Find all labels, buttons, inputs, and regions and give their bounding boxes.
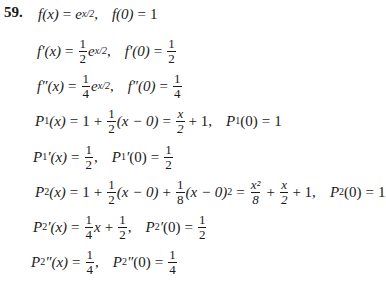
- num: 1: [107, 178, 116, 192]
- p-symbol: P: [145, 219, 154, 236]
- equals: =: [65, 43, 73, 60]
- term: (x − 0): [117, 113, 159, 130]
- equation-p2-prime: P2′(x) = 14x + 12, P2′(0) = 12: [33, 210, 207, 244]
- fraction: 14: [173, 72, 182, 101]
- p-symbol: P: [112, 149, 121, 166]
- comma: ,: [94, 149, 98, 166]
- equation-p2: P2(x) = 1 + 12 (x − 0) + 18 (x − 0)2 = x…: [35, 175, 386, 209]
- equals: =: [160, 78, 168, 95]
- fraction: 12: [118, 213, 127, 242]
- equals: =: [72, 254, 80, 271]
- den: 4: [85, 227, 94, 242]
- arg: (0): [344, 184, 362, 201]
- arg: (0): [133, 254, 151, 271]
- fraction: 12: [107, 107, 116, 136]
- arg: (x): [50, 219, 67, 236]
- plus: +: [94, 113, 102, 130]
- den: 2: [85, 157, 94, 172]
- num: x: [280, 178, 288, 192]
- fraction: 14: [85, 213, 94, 242]
- den: 2: [280, 192, 289, 207]
- p-symbol: P: [33, 219, 42, 236]
- comma: ,: [95, 254, 99, 271]
- term: 1: [82, 184, 90, 201]
- comma: ,: [94, 6, 98, 23]
- equals: =: [68, 78, 76, 95]
- num: 1: [85, 143, 94, 157]
- equals: =: [184, 219, 192, 236]
- den: 2: [118, 227, 127, 242]
- fraction: 14: [82, 72, 91, 101]
- arg: (0): [163, 219, 181, 236]
- fraction: 12: [79, 37, 88, 66]
- lhs: f″(x): [37, 78, 64, 95]
- equals: =: [262, 113, 270, 130]
- fraction: 12: [198, 213, 207, 242]
- value-lhs: f″(0): [128, 78, 156, 95]
- comma: ,: [128, 219, 132, 236]
- num: x: [176, 107, 184, 121]
- fraction: 14: [86, 248, 95, 277]
- den: 2: [167, 51, 176, 66]
- arg: (x): [49, 113, 66, 130]
- num: 1: [164, 143, 173, 157]
- comma: ,: [110, 78, 114, 95]
- equals: =: [71, 219, 79, 236]
- lhs: f′(x): [37, 43, 61, 60]
- num: 1: [168, 248, 177, 262]
- value: 1: [274, 113, 282, 130]
- arg: (0): [240, 113, 258, 130]
- num: 1: [118, 213, 127, 227]
- den: 4: [173, 86, 182, 101]
- equals: =: [63, 6, 71, 23]
- tail: + 1,: [189, 113, 212, 130]
- p-symbol: P: [35, 184, 44, 201]
- num: 1: [167, 37, 176, 51]
- den: 2: [198, 227, 207, 242]
- arg: (x): [51, 254, 68, 271]
- value-lhs: f′(0): [125, 43, 150, 60]
- comma: ,: [107, 43, 111, 60]
- e: e: [88, 43, 95, 60]
- num: 1: [82, 72, 91, 86]
- term: (x − 0): [186, 184, 228, 201]
- den: 4: [86, 262, 95, 277]
- num: 1: [107, 107, 116, 121]
- arg: (x): [50, 149, 67, 166]
- den: 2: [164, 157, 173, 172]
- p-symbol: P: [113, 254, 122, 271]
- equation-f: f(x) = ex/2, f(0) = 1: [38, 0, 158, 31]
- equation-f-prime: f′(x) = 12 ex/2, f′(0) = 12: [37, 34, 177, 68]
- value-lhs: f(0): [112, 6, 134, 23]
- num: 1: [176, 178, 185, 192]
- fraction: x2: [280, 178, 289, 207]
- arg: (x): [49, 184, 66, 201]
- e: e: [91, 78, 98, 95]
- equals: =: [151, 149, 159, 166]
- problem-number: 59.: [4, 4, 23, 21]
- equals: =: [155, 254, 163, 271]
- equation-p1: P1(x) = 1 + 12 (x − 0) = x2 + 1, P1(0) =…: [35, 104, 282, 138]
- tail: + 1,: [292, 184, 315, 201]
- equals: =: [70, 113, 78, 130]
- lhs: f(x): [38, 6, 59, 23]
- den: 2: [176, 121, 185, 136]
- fraction: 18: [176, 178, 185, 207]
- den: 4: [82, 86, 91, 101]
- p-symbol: P: [31, 254, 40, 271]
- value: 1: [150, 6, 158, 23]
- num: 1: [86, 248, 95, 262]
- fraction: x2: [176, 107, 185, 136]
- num: x²: [250, 178, 262, 192]
- e: e: [75, 6, 82, 23]
- fraction: x²8: [250, 178, 262, 207]
- equals: =: [366, 184, 374, 201]
- equals: =: [236, 184, 244, 201]
- plus: +: [163, 184, 171, 201]
- equation-f-double-prime: f″(x) = 14 ex/2, f″(0) = 14: [37, 69, 183, 103]
- variable: x: [94, 219, 101, 236]
- fraction: 12: [164, 143, 173, 172]
- p-symbol: P: [226, 113, 235, 130]
- num: 1: [85, 213, 94, 227]
- p-symbol: P: [35, 113, 44, 130]
